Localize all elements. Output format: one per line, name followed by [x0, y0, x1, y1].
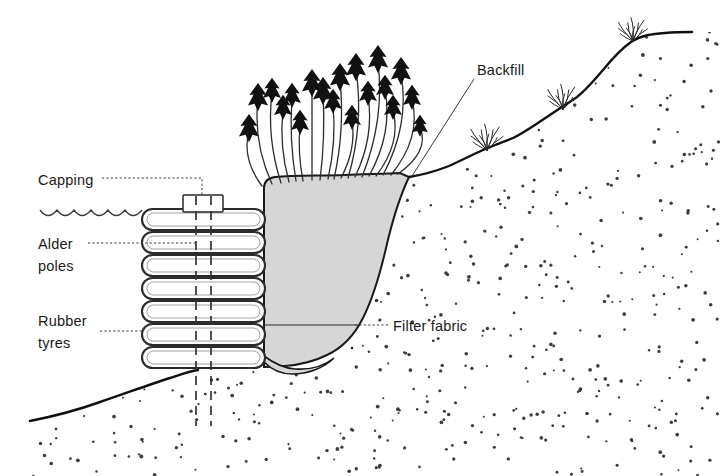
plant-shoot-icon: [239, 45, 428, 186]
label-alder-poles-line2: poles: [38, 258, 74, 274]
label-alder-poles-line1: Alder: [38, 236, 73, 252]
backfill-mass: [264, 173, 409, 367]
grass-tuft-icon: [471, 18, 648, 150]
ground-surface-line: [30, 370, 198, 421]
label-rubber-tyres-line2: tyres: [38, 335, 70, 351]
table-row: [142, 301, 265, 322]
label-filter-fabric: Filter fabric: [393, 318, 467, 334]
table-row: [142, 255, 265, 276]
right-bank-slope-line: [409, 32, 692, 177]
diagram-canvas: Capping Alder poles Rubber tyres Backfil…: [0, 0, 722, 476]
table-row: [142, 278, 265, 299]
list-item: [471, 124, 503, 150]
revetment-cross-section-svg: Capping Alder poles Rubber tyres Backfil…: [0, 0, 722, 476]
list-item: [398, 115, 428, 174]
label-backfill: Backfill: [477, 62, 525, 78]
list-item: [313, 77, 333, 180]
label-capping: Capping: [38, 172, 93, 188]
list-item: [324, 89, 342, 179]
capping-leader-line: [102, 178, 202, 195]
table-row: [142, 324, 265, 345]
label-rubber-tyres-line1: Rubber: [38, 313, 87, 329]
capping-cap-block: [183, 195, 223, 212]
list-item: [362, 45, 388, 177]
list-item: [239, 114, 262, 186]
rubber-tyre-stack: [142, 209, 265, 368]
table-row: [142, 347, 265, 368]
water-wave-icon: [40, 210, 142, 216]
